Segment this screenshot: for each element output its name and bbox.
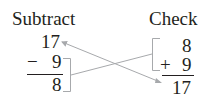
connector-difference-to-check bbox=[71, 54, 152, 75]
subtract-bracket bbox=[63, 59, 71, 92]
connector-sum-to-minuend-arrow bbox=[62, 42, 160, 82]
arrowhead-near-sum-icon bbox=[155, 78, 162, 83]
connector-diagram bbox=[0, 0, 206, 99]
check-bracket bbox=[153, 39, 161, 71]
